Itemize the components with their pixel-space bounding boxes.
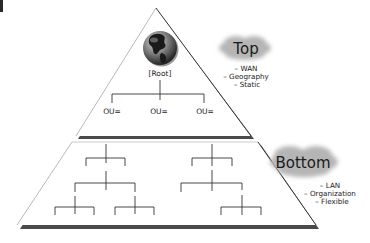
ou-node-3: OU= (196, 107, 214, 116)
ou-hierarchy-diagram: [Root] OU= OU= OU= Top – WAN – Geography (0, 0, 370, 243)
bottom-bullets: – LAN – Organization – Flexible (304, 181, 356, 206)
bottom-trapezoid (17, 142, 319, 229)
top-bullets: – WAN – Geography – Static (223, 64, 269, 89)
corner-mark (0, 0, 3, 12)
bottom-cloud-label: Bottom (275, 154, 330, 172)
ou-node-1: OU= (103, 107, 121, 116)
root-label: [Root] (149, 69, 172, 78)
top-cloud-label: Top (232, 40, 258, 58)
bottom-bullet-flexible: – Flexible (315, 197, 349, 206)
ou-node-2: OU= (150, 107, 168, 116)
top-bullet-static: – Static (234, 80, 260, 89)
